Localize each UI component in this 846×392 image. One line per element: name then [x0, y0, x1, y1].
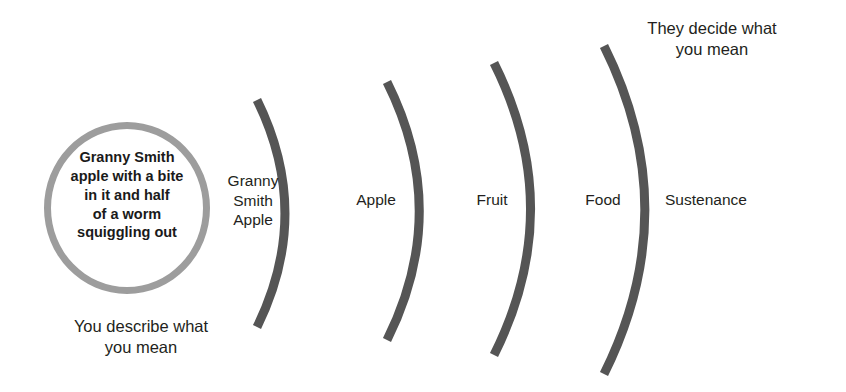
arc-path-group [257, 46, 645, 374]
arc-label-sustenance: Sustenance [665, 190, 777, 210]
utterance-circle-text: Granny Smith apple with a bite in it and… [46, 148, 208, 242]
arc-label-food: Food [575, 190, 631, 210]
diagram-canvas: Granny Smith apple with a bite in it and… [0, 0, 846, 392]
arc-3 [604, 46, 645, 374]
arc-label-granny-smith-apple: Granny Smith Apple [222, 171, 284, 230]
caption-they-decide: They decide what you mean [590, 18, 834, 59]
arc-label-fruit: Fruit [463, 190, 521, 210]
caption-you-describe: You describe what you mean [22, 316, 260, 357]
arc-label-apple: Apple [345, 190, 407, 210]
arc-1 [387, 82, 419, 340]
